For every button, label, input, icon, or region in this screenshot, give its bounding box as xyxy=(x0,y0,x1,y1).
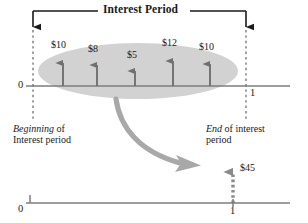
end-caption-rest: of interest xyxy=(222,123,265,134)
beginning-caption: Beginning of Interest period xyxy=(13,124,71,146)
beginning-caption-rest: of xyxy=(54,123,65,134)
beginning-caption-emphasis: Beginning xyxy=(13,123,54,134)
cash-flow-label-2: $8 xyxy=(88,44,98,55)
cash-flow-figure: Interest Period $10 $8 $5 $12 $10 0 1 Be… xyxy=(0,0,308,223)
cash-flow-label-3: $5 xyxy=(127,50,137,61)
cash-flow-label-1: $10 xyxy=(51,40,66,51)
end-caption-emphasis: End xyxy=(206,123,222,134)
figure-graphics xyxy=(0,0,308,223)
top-timeline-start-label: 0 xyxy=(18,79,23,90)
cash-flow-label-4: $12 xyxy=(162,38,177,49)
end-caption-line2: period xyxy=(206,135,265,146)
bottom-timeline-start-label: 0 xyxy=(18,203,23,214)
cash-flow-label-5: $10 xyxy=(199,42,214,53)
equivalence-curved-arrow xyxy=(116,99,201,172)
beginning-caption-line2: Interest period xyxy=(13,135,71,146)
top-timeline-end-label: 1 xyxy=(250,87,255,98)
end-caption: End of interest period xyxy=(206,124,265,146)
figure-title: Interest Period xyxy=(103,3,178,15)
bottom-timeline-axis xyxy=(26,195,290,207)
bottom-timeline-end-label: 1 xyxy=(230,205,235,216)
future-value-label: $45 xyxy=(240,163,255,174)
